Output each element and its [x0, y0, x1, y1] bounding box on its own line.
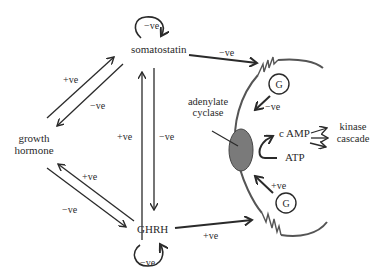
label-gh-to-ghrh: −ve — [62, 204, 77, 215]
node-atp: ATP — [285, 152, 305, 163]
receptor-bottom-zigzag — [262, 213, 281, 235]
cell-membrane — [278, 59, 323, 68]
node-adenylate-cyclase-line2: cyclase — [183, 107, 233, 118]
node-adenylate-cyclase-line1: adenylate — [183, 96, 233, 107]
ghrh-to-receptor-arrow — [175, 220, 252, 228]
g-protein-bottom-label: G — [280, 198, 292, 209]
node-kinase-cascade-line2: cascade — [330, 133, 376, 144]
label-g-bottom-to-cyclase: +ve — [271, 180, 286, 191]
diagram-graphics — [0, 0, 378, 277]
receptor-top-zigzag — [258, 57, 278, 75]
label-gh-to-somatostatin: +ve — [63, 74, 78, 85]
label-somatostatin-to-ghrh: −ve — [159, 131, 174, 142]
label-ghrh-to-gh: +ve — [82, 171, 97, 182]
node-kinase-cascade-line1: kinase — [330, 121, 376, 132]
node-growth-hormone-line2: hormone — [9, 145, 59, 156]
camp-to-kinase-arrow-3 — [310, 143, 326, 147]
label-somatostatin-to-receptor: −ve — [219, 47, 234, 58]
label-somatostatin-to-gh: −ve — [90, 100, 105, 111]
label-ghrh-self: −ve — [140, 257, 155, 268]
node-ghrh: GHRH — [137, 224, 168, 235]
label-ghrh-to-receptor: +ve — [203, 230, 218, 241]
node-growth-hormone-line1: growth — [14, 133, 54, 144]
node-somatostatin: somatostatin — [131, 44, 187, 55]
adenylate-cyclase-shape — [229, 129, 253, 171]
label-somatostatin-self: −ve — [144, 20, 159, 31]
label-ghrh-to-somatostatin: +ve — [117, 131, 132, 142]
diagram-canvas: somatostatin growth hormone GHRH adenyla… — [0, 0, 378, 277]
g-protein-top-label: G — [273, 79, 285, 90]
atp-to-camp-arrow — [260, 136, 278, 158]
camp-to-kinase-arrow-1 — [311, 128, 327, 133]
cell-membrane-bottom — [281, 222, 327, 236]
node-camp: c AMP — [279, 128, 310, 139]
label-g-top-to-cyclase: −ve — [265, 101, 280, 112]
